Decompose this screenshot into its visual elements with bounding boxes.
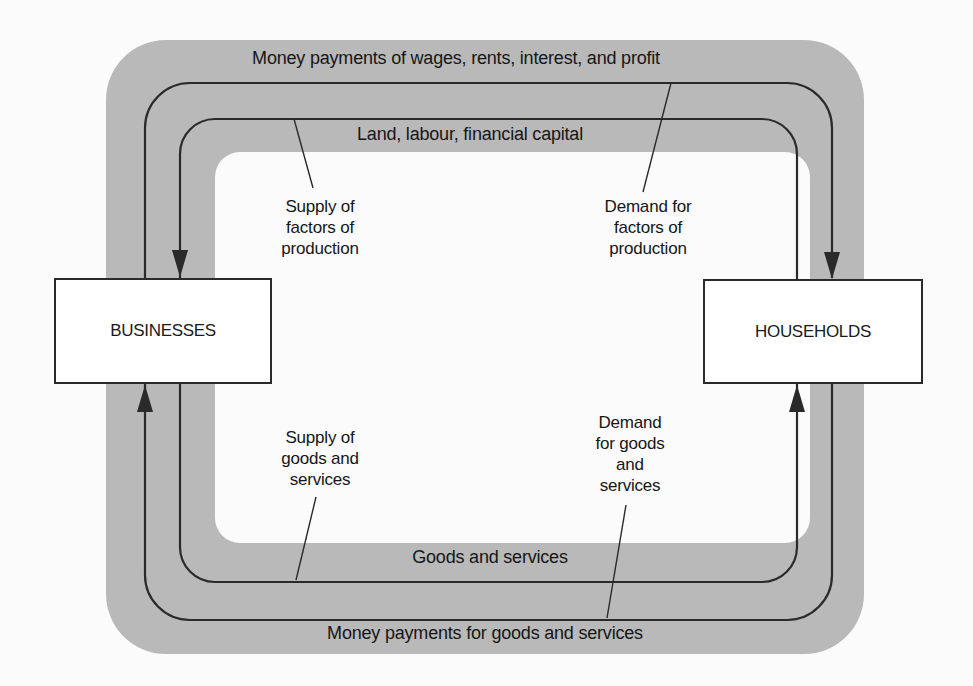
annotation-demand-factors: Demand for factors of production <box>578 196 718 259</box>
businesses-label: BUSINESSES <box>110 321 216 341</box>
annotation-supply-factors: Supply of factors of production <box>255 196 385 259</box>
label-factors-flow: Land, labour, financial capital <box>325 124 615 145</box>
label-money-wages-flow: Money payments of wages, rents, interest… <box>213 48 699 69</box>
annotation-demand-goods: Demand for goods and services <box>580 412 680 496</box>
annotation-supply-goods: Supply of goods and services <box>255 427 385 490</box>
arrow-up-icon <box>789 385 805 412</box>
households-node: HOUSEHOLDS <box>703 279 923 384</box>
households-label: HOUSEHOLDS <box>755 322 871 342</box>
businesses-node: BUSINESSES <box>54 278 272 384</box>
label-goods-flow: Goods and services <box>380 547 600 568</box>
label-money-goods-flow: Money payments for goods and services <box>300 623 670 644</box>
